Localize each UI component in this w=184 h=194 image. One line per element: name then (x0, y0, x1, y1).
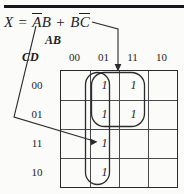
leader-line-ab (14, 26, 94, 141)
karnaugh-map-figure: X = AB + BC AB CD 00 01 11 10 00 01 11 1… (0, 0, 184, 194)
arrowhead-bc (115, 64, 122, 72)
group-loop-bc (92, 73, 145, 127)
group-loop-ab (86, 73, 110, 185)
annotation-overlay (0, 0, 184, 194)
leader-line-bc (92, 22, 118, 66)
arrowhead-ab (90, 139, 98, 146)
